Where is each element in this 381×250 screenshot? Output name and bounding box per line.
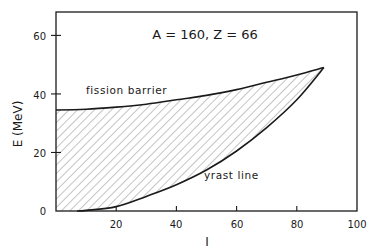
y-tick-60: 60 [33, 31, 46, 42]
y-tick-0: 0 [40, 206, 46, 217]
y-tick-20: 20 [33, 148, 46, 159]
x-tick-80: 80 [291, 219, 304, 230]
x-tick-60: 60 [231, 219, 244, 230]
x-tick-100: 100 [347, 219, 366, 230]
x-axis-label: I [205, 235, 209, 249]
y-axis-label: E (MeV) [11, 101, 25, 148]
chart-title: A = 160, Z = 66 [152, 27, 258, 42]
chart: 20 40 60 80 100 0 20 40 60 I E (MeV) A =… [0, 0, 381, 250]
yrast-line-label: yrast line [204, 169, 259, 181]
x-tick-40: 40 [170, 219, 183, 230]
y-tick-40: 40 [33, 90, 46, 101]
fission-barrier-label: fission barrier [86, 84, 167, 96]
x-tick-20: 20 [110, 219, 123, 230]
